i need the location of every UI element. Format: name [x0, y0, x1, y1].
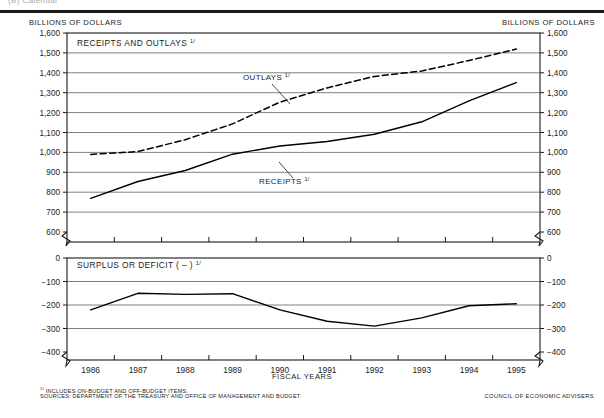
y-axis-tick-label-right: −300	[547, 325, 566, 334]
y-axis-tick-label-right: −400	[547, 348, 566, 357]
y-axis-tick-label-right: 1,400	[547, 69, 568, 78]
panel-title-surplus-or-deficit: SURPLUS OR DEFICIT ( – ) 1/	[77, 260, 201, 270]
y-axis-break-right	[535, 232, 543, 246]
y-axis-tick-label-right: 1,100	[547, 129, 568, 138]
y-axis-tick-label-right: 900	[547, 168, 561, 177]
y-axis-tick-label-right: 800	[547, 188, 561, 197]
y-axis-tick-label-right: −200	[547, 301, 566, 310]
y-axis-tick-label-right: 1,000	[547, 148, 568, 157]
chart-canvas: 6006007007008008009009001,0001,0001,1001…	[0, 0, 604, 418]
receipts-leader-line	[279, 162, 293, 178]
y-axis-tick-label-left: 600	[46, 228, 60, 237]
y-axis-tick-label-left: 1,100	[40, 129, 61, 138]
y-axis-tick-label-left: −300	[42, 325, 61, 334]
series-label-outlays: OUTLAYS 1/	[243, 72, 290, 82]
y-axis-tick-label-left: 1,500	[40, 49, 61, 58]
y-axis-tick-label-left: 1,600	[40, 29, 61, 38]
series-line-outlays	[91, 49, 517, 154]
y-axis-tick-label-right: 1,600	[547, 29, 568, 38]
y-axis-tick-label-right: −100	[547, 278, 566, 287]
y-axis-tick-label-right: 1,200	[547, 109, 568, 118]
panel-frame-1	[67, 258, 540, 360]
y-axis-break-right	[535, 352, 543, 366]
series-line-surplus-or-deficit-	[91, 293, 517, 326]
y-axis-tick-label-left: 0	[55, 254, 60, 263]
y-axis-break-left	[62, 232, 70, 246]
footnote-marker: 1/	[40, 386, 44, 391]
y-axis-tick-label-left: 1,200	[40, 109, 61, 118]
y-axis-tick-label-left: 700	[46, 208, 60, 217]
source-credit: COUNCIL OF ECONOMIC ADVISERS	[485, 393, 594, 399]
panel-frame-0	[67, 33, 540, 242]
y-axis-tick-label-left: −400	[42, 348, 61, 357]
y-axis-tick-label-right: 600	[547, 228, 561, 237]
y-axis-tick-label-right: 1,300	[547, 89, 568, 98]
footnote-two: SOURCES: DEPARTMENT OF THE TREASURY AND …	[40, 393, 302, 399]
y-axis-tick-label-left: −200	[42, 301, 61, 310]
y-axis-break-left	[62, 352, 70, 366]
y-axis-tick-label-left: −100	[42, 278, 61, 287]
panel-title-receipts-and-outlays: RECEIPTS AND OUTLAYS 1/	[77, 38, 195, 48]
y-axis-tick-label-left: 1,400	[40, 69, 61, 78]
y-axis-tick-label-left: 800	[46, 188, 60, 197]
y-axis-tick-label-right: 1,500	[547, 49, 568, 58]
x-axis-title: FISCAL YEARS	[0, 372, 604, 381]
y-axis-tick-label-left: 900	[46, 168, 60, 177]
y-axis-tick-label-left: 1,000	[40, 148, 61, 157]
y-axis-tick-label-right: 700	[547, 208, 561, 217]
series-label-receipts: RECEIPTS 1/	[259, 176, 310, 186]
y-axis-tick-label-right: 0	[547, 254, 552, 263]
y-axis-tick-label-left: 1,300	[40, 89, 61, 98]
